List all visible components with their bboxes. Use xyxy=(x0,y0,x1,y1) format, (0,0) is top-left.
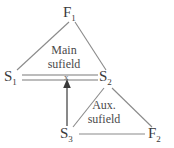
main-sufield-label-line1: Main xyxy=(36,44,92,56)
interaction-x-mark: x xyxy=(64,73,69,82)
aux-sufield-label-line1: Aux. xyxy=(78,99,130,111)
sufield-diagram: F1 S1 S2 S3 F2 Main sufield Aux. sufield… xyxy=(0,0,174,148)
node-label-f2: F2 xyxy=(148,126,161,144)
node-label-s3: S3 xyxy=(60,126,73,144)
node-label-f1: F1 xyxy=(63,5,76,23)
main-sufield-label-line2: sufield xyxy=(36,58,92,70)
aux-sufield-label-line2: sufield xyxy=(78,113,130,125)
node-label-s1: S1 xyxy=(4,69,17,87)
node-label-s2: S2 xyxy=(99,69,112,87)
